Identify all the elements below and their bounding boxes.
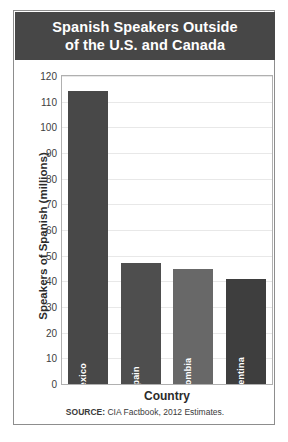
y-axis-tick-label: 110 — [21, 96, 61, 107]
title-line-2: of the U.S. and Canada — [52, 36, 237, 54]
bar[interactable]: Argentina — [226, 279, 266, 384]
y-axis-title: Speakers of Spanish (millions) — [37, 111, 49, 361]
bar[interactable]: Colombia — [173, 269, 213, 385]
bar-label: Colombia — [183, 358, 193, 385]
x-axis-title: Country — [61, 389, 273, 403]
y-axis-tick-label: 120 — [21, 71, 61, 82]
bar-label: Mexico — [78, 363, 88, 385]
source-label: SOURCE: — [66, 407, 105, 417]
y-axis-tick-label: 0 — [21, 379, 61, 390]
page-title: Spanish Speakers Outside of the U.S. and… — [46, 18, 243, 54]
plot-area: MexicoSpainColombiaArgentina — [61, 75, 273, 385]
bar-label: Spain — [131, 366, 141, 385]
chart-title-banner: Spanish Speakers Outside of the U.S. and… — [15, 12, 275, 60]
source-note: SOURCE: CIA Factbook, 2012 Estimates. — [15, 407, 275, 417]
bar[interactable]: Spain — [121, 263, 161, 384]
bar-label: Argentina — [236, 357, 246, 385]
title-line-1: Spanish Speakers Outside — [52, 18, 237, 36]
chart-figure: Spanish Speakers Outside of the U.S. and… — [13, 10, 275, 425]
bar[interactable]: Mexico — [68, 91, 108, 384]
gridline — [62, 76, 272, 77]
source-text: CIA Factbook, 2012 Estimates. — [105, 407, 224, 417]
